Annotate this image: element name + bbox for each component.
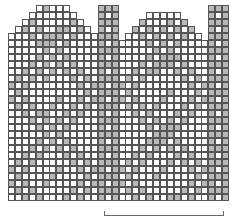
filled-cell (222, 54, 229, 61)
filled-cell (112, 33, 119, 40)
filled-cell (222, 103, 229, 110)
filled-cell (112, 19, 119, 26)
filled-cell (222, 110, 229, 117)
filled-cell (222, 47, 229, 54)
filled-cell (222, 180, 229, 187)
filled-cell (222, 159, 229, 166)
repeat-bracket (104, 211, 224, 216)
filled-cell (112, 26, 119, 33)
filled-cell (222, 131, 229, 138)
filled-cell (222, 152, 229, 159)
filled-cell (222, 33, 229, 40)
filled-cell (222, 166, 229, 173)
filled-cell (112, 12, 119, 19)
filled-cell (222, 124, 229, 131)
filled-cell (222, 61, 229, 68)
filled-cell (222, 19, 229, 26)
filled-cell (188, 26, 195, 33)
filled-cell (222, 12, 229, 19)
empty-cell (84, 26, 91, 33)
empty-cell (70, 12, 77, 19)
filled-cell (222, 138, 229, 145)
filled-cell (222, 117, 229, 124)
filled-cell (112, 5, 119, 12)
filled-cell (222, 75, 229, 82)
filled-cell (222, 194, 229, 201)
filled-cell (181, 19, 188, 26)
empty-cell (195, 33, 202, 40)
filled-cell (222, 5, 229, 12)
filled-cell (222, 26, 229, 33)
filled-cell (222, 187, 229, 194)
filled-cell (222, 40, 229, 47)
empty-cell (77, 19, 84, 26)
filled-cell (222, 82, 229, 89)
filled-cell (222, 173, 229, 180)
empty-cell (174, 12, 181, 19)
empty-cell (63, 5, 70, 12)
filled-cell (222, 89, 229, 96)
filled-cell (222, 145, 229, 152)
filled-cell (222, 96, 229, 103)
filled-cell (222, 68, 229, 75)
